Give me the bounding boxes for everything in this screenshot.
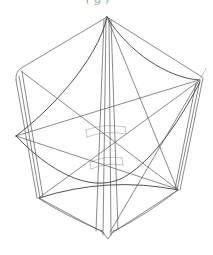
center-bundle-line-3 [109,19,111,235]
column-band-2-left [90,162,91,169]
left-bundle-line-2 [19,76,40,198]
center-bundle-line-1 [96,20,104,231]
figure-canvas: (g) [0,0,213,255]
right-bundle-line-3 [180,78,203,190]
column-band-1-bottom [87,133,126,137]
right-bundle-line-1 [175,83,196,189]
column-band-2-right [122,158,123,165]
center-bundle-line-4 [111,20,118,230]
column-band-2-bottom [91,164,123,169]
wireframe-figure [0,0,213,255]
column-band-2-top [90,157,122,162]
center-bundle-line-2 [103,19,106,235]
edge-top-right [107,17,202,77]
hump-curve-lower [39,185,178,198]
column-band-1-top [86,126,125,130]
corner-hook-right [199,68,206,80]
sag-curve-apex-right [107,17,199,80]
column-band-1-right [125,127,126,134]
column-band-1-left [86,130,87,137]
edge-top-left [16,17,107,80]
right-bundle-line-2 [177,80,200,190]
left-bundle-line-3 [22,72,43,197]
chord-upper-left-to-lower-right [21,71,177,189]
chord-bottom-to-upper-right [110,82,198,232]
chord-lower-left-to-bottom [39,198,104,233]
